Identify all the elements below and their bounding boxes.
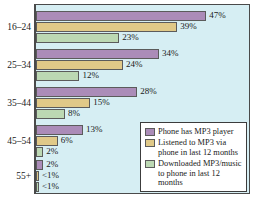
bar [36,136,58,146]
y-axis-tick-label: 55+ [0,171,31,181]
bar-value-label: <1% [42,181,59,192]
bar-row: 34% [36,49,249,59]
legend-label: Downloaded MP3/music to phone in last 12… [158,159,243,187]
bar-value-label: 6% [61,135,73,146]
y-axis-tick-label: 25–34 [0,60,31,70]
bar [36,33,119,43]
bar-row: 8% [36,109,249,119]
bar-chart: 47%39%23%34%24%12%28%15%8%13%6%2%2%<1%<1… [0,0,255,205]
bar [36,171,39,181]
bar [36,109,65,119]
bar [36,11,206,21]
legend-swatch-listened-to-mp3 [145,139,155,147]
bar-value-label: 39% [180,21,197,32]
legend-label: Listened to MP3 via phone in last 12 mon… [158,138,243,157]
bar-value-label: 23% [122,32,139,43]
bar-row: 39% [36,22,249,32]
bar-row: 28% [36,87,249,97]
bar-row: 12% [36,71,249,81]
legend-item: Listened to MP3 via phone in last 12 mon… [145,138,243,157]
legend-label: Phone has MP3 player [158,127,234,136]
bar-value-label: 47% [209,10,226,21]
bar-value-label: <1% [42,170,59,181]
bar-row: 47% [36,11,249,21]
bar-value-label: 12% [82,70,99,81]
bar-row: 23% [36,33,249,43]
bar-group: 34%24%12% [36,49,249,82]
bar-value-label: 34% [162,48,179,59]
bar-value-label: 24% [126,59,143,70]
legend-item: Phone has MP3 player [145,127,243,136]
legend-swatch-downloaded-mp3 [145,160,155,168]
bar [36,125,83,135]
bar [36,182,39,192]
bar-value-label: 2% [46,159,58,170]
y-axis-tick-label: 16–24 [0,22,31,32]
legend-swatch-phone-has-mp3-player [145,128,155,136]
bar-value-label: 13% [86,124,103,135]
bar-row: 15% [36,98,249,108]
y-axis-tick-label: 45–54 [0,136,31,146]
bar [36,22,177,32]
bar [36,98,90,108]
bar-value-label: 2% [46,146,58,157]
bar-group: 47%39%23% [36,11,249,44]
chart-legend: Phone has MP3 player Listened to MP3 via… [140,122,247,192]
bar-value-label: 28% [140,86,157,97]
bar-group: 28%15%8% [36,87,249,120]
bar-value-label: 15% [93,97,110,108]
legend-item: Downloaded MP3/music to phone in last 12… [145,159,243,187]
bar [36,160,43,170]
y-axis-tick-label: 35–44 [0,98,31,108]
bar [36,60,123,70]
bar [36,71,79,81]
bar-row: 24% [36,60,249,70]
bar-value-label: 8% [68,108,80,119]
bar [36,147,43,157]
bar [36,49,159,59]
bar [36,87,137,97]
